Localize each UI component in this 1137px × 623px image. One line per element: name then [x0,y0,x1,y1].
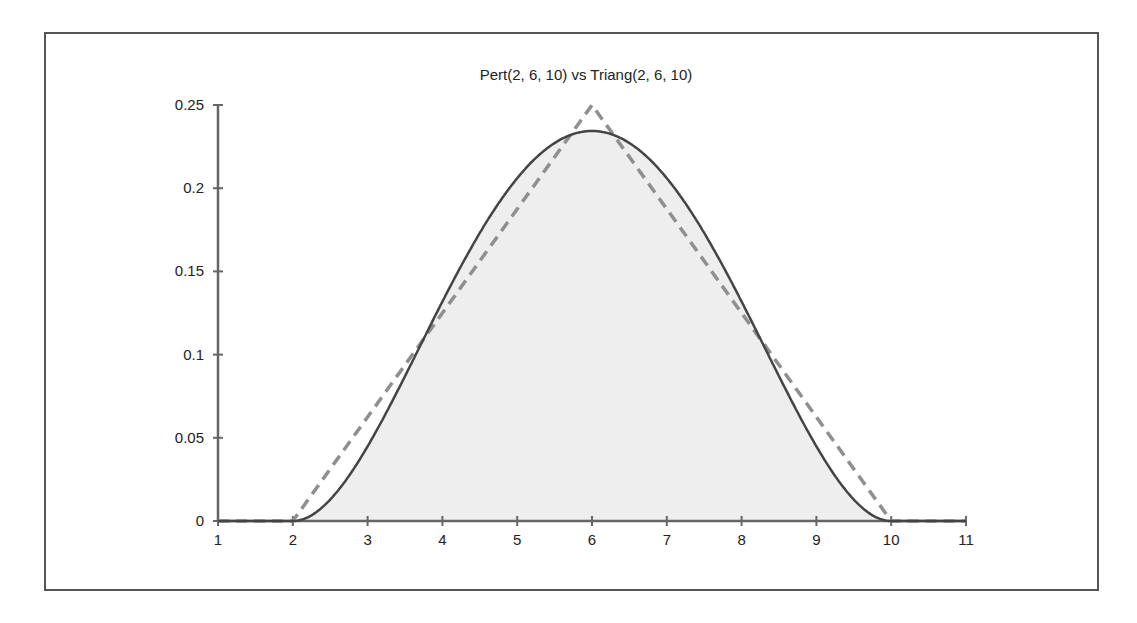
x-tick-label: 8 [737,531,745,548]
y-tick-label: 0.2 [183,179,204,196]
x-tick-label: 5 [513,531,521,548]
y-tick-label: 0.25 [175,96,204,113]
x-tick-label: 1 [214,531,222,548]
x-tick-label: 2 [289,531,297,548]
x-tick-label: 9 [812,531,820,548]
chart-title: Pert(2, 6, 10) vs Triang(2, 6, 10) [480,66,693,83]
pert-area-fill [218,131,966,521]
x-tick-label: 7 [663,531,671,548]
y-tick-label: 0 [196,512,204,529]
x-tick-label: 11 [958,531,974,548]
y-tick-label: 0.15 [175,262,204,279]
y-tick-label: 0.1 [183,346,204,363]
x-tick-label: 4 [438,531,446,548]
x-axis: 1234567891011 [214,516,974,548]
y-axis: 00.050.10.150.20.25 [175,96,223,529]
x-tick-label: 10 [883,531,900,548]
y-tick-label: 0.05 [175,429,204,446]
x-tick-label: 6 [588,531,596,548]
x-tick-label: 3 [363,531,371,548]
chart-plot-area: Pert(2, 6, 10) vs Triang(2, 6, 10) 00.05… [0,0,1137,623]
